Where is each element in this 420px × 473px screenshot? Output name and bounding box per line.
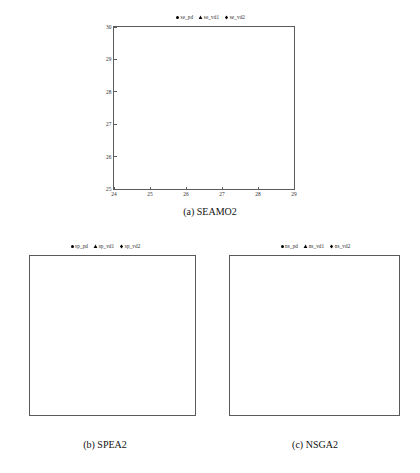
caption-spea2: (b) SPEA2 bbox=[0, 439, 210, 450]
legend-entry-ns_pd: ns_pd bbox=[280, 243, 299, 249]
legend-marker-triangle bbox=[303, 244, 308, 249]
legend-label: se_pd bbox=[181, 14, 194, 20]
legend-entry-se_vd2: se_vd2 bbox=[224, 14, 245, 20]
caption-nsga2: (c) NSGA2 bbox=[210, 439, 420, 450]
legend-label: se_vd1 bbox=[204, 14, 219, 20]
x-axis-tick-label: 27 bbox=[219, 189, 224, 197]
legend-marker-diamond bbox=[329, 244, 334, 249]
legend-entry-sp_vd2: sp_vd2 bbox=[119, 243, 140, 249]
legend-marker-diamond bbox=[119, 244, 124, 249]
x-axis-tick-label: 29 bbox=[291, 189, 296, 197]
legend-label: sp_vd1 bbox=[99, 243, 115, 249]
x-axis-tick-label: 28 bbox=[255, 189, 260, 197]
y-tickmark bbox=[114, 27, 117, 28]
y-axis-tick-label: 26 bbox=[106, 154, 114, 160]
panel-seamo2: se_pdse_vd1se_vd2 2526272829302425262728… bbox=[0, 14, 420, 226]
legend-entry-ns_vd2: ns_vd2 bbox=[329, 243, 350, 249]
legend-label: sp_vd2 bbox=[125, 243, 141, 249]
legend-entry-ns_vd1: ns_vd1 bbox=[303, 243, 324, 249]
x-axis-tick-label: 24 bbox=[111, 189, 116, 197]
legend-marker-circle bbox=[280, 244, 285, 249]
y-tickmark bbox=[114, 59, 117, 60]
panel-spea2: sp_pdsp_vd1sp_vd2 (b) SPEA2 bbox=[0, 243, 210, 473]
legend-seamo2: se_pdse_vd1se_vd2 bbox=[0, 14, 420, 20]
legend-label: sp_pd bbox=[75, 243, 88, 249]
legend-marker-circle bbox=[70, 244, 75, 249]
legend-marker-diamond bbox=[224, 15, 229, 20]
legend-marker-circle bbox=[175, 15, 180, 20]
plot-frame-seamo2: 252627282930242526272829 bbox=[113, 26, 295, 190]
panel-nsga2: ns_pdns_vd1ns_vd2 (c) NSGA2 bbox=[210, 243, 420, 473]
legend-entry-se_vd1: se_vd1 bbox=[198, 14, 219, 20]
y-tickmark bbox=[114, 156, 117, 157]
plot-area-nsga2 bbox=[210, 251, 420, 429]
legend-marker-triangle bbox=[198, 15, 203, 20]
y-axis-tick-label: 30 bbox=[106, 24, 114, 30]
x-axis-tick-label: 25 bbox=[147, 189, 152, 197]
legend-entry-se_pd: se_pd bbox=[175, 14, 193, 20]
x-axis-tick-label: 26 bbox=[183, 189, 188, 197]
y-tickmark bbox=[114, 124, 117, 125]
plot-area-seamo2: 252627282930242526272829 bbox=[0, 22, 420, 200]
plot-area-spea2 bbox=[0, 251, 210, 429]
legend-entry-sp_vd1: sp_vd1 bbox=[93, 243, 114, 249]
figure-pareto-front-comparison: se_pdse_vd1se_vd2 2526272829302425262728… bbox=[0, 0, 420, 473]
y-axis-tick-label: 27 bbox=[106, 121, 114, 127]
legend-spea2: sp_pdsp_vd1sp_vd2 bbox=[0, 243, 210, 249]
legend-entry-sp_pd: sp_pd bbox=[70, 243, 89, 249]
y-tickmark bbox=[114, 91, 117, 92]
y-axis-tick-label: 28 bbox=[106, 89, 114, 95]
plot-frame-nsga2 bbox=[229, 255, 400, 416]
caption-seamo2: (a) SEAMO2 bbox=[0, 206, 420, 217]
plot-frame-spea2 bbox=[29, 255, 196, 416]
legend-label: ns_vd1 bbox=[309, 243, 325, 249]
legend-label: ns_vd2 bbox=[335, 243, 351, 249]
legend-marker-triangle bbox=[93, 244, 98, 249]
legend-nsga2: ns_pdns_vd1ns_vd2 bbox=[210, 243, 420, 249]
legend-label: se_vd2 bbox=[230, 14, 245, 20]
legend-label: ns_pd bbox=[285, 243, 298, 249]
y-axis-tick-label: 29 bbox=[106, 56, 114, 62]
